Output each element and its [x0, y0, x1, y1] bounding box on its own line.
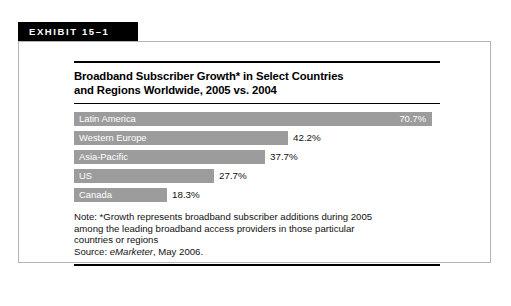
- exhibit-banner: EXHIBIT 15–1: [18, 22, 138, 41]
- bar-label: Latin America: [79, 114, 136, 123]
- bar-us: US: [74, 169, 214, 183]
- exhibit-content: Broadband Subscriber Growth* in Select C…: [74, 61, 440, 266]
- bar-row: Western Europe 42.2%: [74, 131, 440, 145]
- footer-rule: [74, 264, 440, 266]
- bar-row: Asia-Pacific 37.7%: [74, 150, 440, 164]
- bar-value: 37.7%: [265, 150, 298, 164]
- bar-label: Canada: [79, 190, 112, 199]
- chart-source: Source: eMarketer, May 2006.: [74, 246, 440, 258]
- source-name: eMarketer: [110, 246, 153, 257]
- bar-canada: Canada: [74, 188, 167, 202]
- bar-value: 70.7%: [399, 114, 426, 123]
- chart-title-line-2: and Regions Worldwide, 2005 vs. 2004: [74, 84, 440, 98]
- note-line-1: Note: *Growth represents broadband subsc…: [74, 211, 440, 223]
- bar-row: Canada 18.3%: [74, 188, 440, 202]
- chart-title: Broadband Subscriber Growth* in Select C…: [74, 70, 440, 97]
- source-suffix: , May 2006.: [153, 246, 203, 257]
- bar-label: Asia-Pacific: [79, 152, 128, 161]
- bar-label: Western Europe: [79, 133, 147, 142]
- bar-asia-pacific: Asia-Pacific: [74, 150, 265, 164]
- title-rule-top: [74, 61, 440, 63]
- exhibit-banner-label: EXHIBIT 15–1: [29, 26, 109, 37]
- title-rule-bottom: [74, 103, 440, 104]
- bar-chart: Latin America 70.7% Western Europe 42.2%…: [74, 112, 440, 202]
- bar-western-europe: Western Europe: [74, 131, 288, 145]
- bar-label: US: [79, 171, 92, 180]
- note-line-2: among the leading broadband access provi…: [74, 223, 440, 235]
- chart-note: Note: *Growth represents broadband subsc…: [74, 211, 440, 257]
- bar-value: 42.2%: [288, 131, 321, 145]
- source-prefix: Source:: [74, 246, 110, 257]
- bar-row: Latin America 70.7%: [74, 112, 440, 126]
- bar-row: US 27.7%: [74, 169, 440, 183]
- chart-title-line-1: Broadband Subscriber Growth* in Select C…: [74, 70, 440, 84]
- bar-value: 18.3%: [167, 188, 200, 202]
- note-line-3: countries or regions: [74, 234, 440, 246]
- bar-value: 27.7%: [214, 169, 247, 183]
- bar-latin-america: Latin America 70.7%: [74, 112, 432, 126]
